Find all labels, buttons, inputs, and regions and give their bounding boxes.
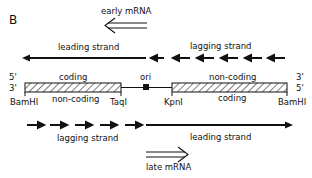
taqi-label: TaqI xyxy=(110,98,127,107)
kpni-label: KpnI xyxy=(164,98,183,107)
ori-label: ori xyxy=(140,73,151,82)
early-mrna-arrow xyxy=(105,18,147,33)
late-mrna-arrow xyxy=(146,147,188,162)
top-leading-strand-label: leading strand xyxy=(58,43,119,52)
top-lagging-strand-arrows xyxy=(151,55,285,61)
left-dna-segment xyxy=(25,83,121,92)
right-noncoding-label: non-coding xyxy=(209,73,256,82)
left-noncoding-label: non-coding xyxy=(52,95,99,104)
right-5prime-label: 5' xyxy=(296,84,304,93)
early-mrna-label: early mRNA xyxy=(101,7,151,16)
bottom-lagging-strand-arrows xyxy=(27,122,142,128)
right-dna-segment xyxy=(172,83,287,92)
bottom-lagging-strand-label: lagging strand xyxy=(57,134,118,143)
bamhi-right-label: BamHI xyxy=(278,98,306,107)
top-leading-strand-arrow xyxy=(22,55,146,62)
bottom-leading-strand-arrow xyxy=(146,122,293,129)
late-mrna-label: late mRNA xyxy=(146,163,191,172)
replication-diagram xyxy=(0,0,312,178)
right-3prime-label: 3' xyxy=(296,73,304,82)
ori-marker xyxy=(143,84,149,90)
panel-label: B xyxy=(9,13,17,27)
bamhi-left-label: BamHI xyxy=(10,98,38,107)
left-5prime-label: 5' xyxy=(9,73,17,82)
bottom-leading-strand-label: leading strand xyxy=(190,133,251,142)
left-3prime-label: 3' xyxy=(9,84,17,93)
right-coding-label: coding xyxy=(218,94,246,103)
top-lagging-strand-label: lagging strand xyxy=(190,42,251,51)
left-coding-label: coding xyxy=(59,73,87,82)
